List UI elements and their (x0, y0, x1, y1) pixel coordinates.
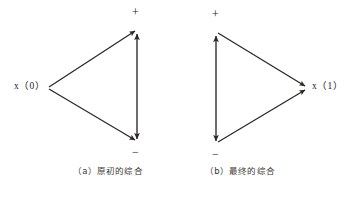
sign-label-minus-b: − (212, 148, 219, 160)
edge-source-to-minus-a (49, 89, 135, 140)
diagram-canvas (0, 0, 353, 199)
sign-label-plus-a: + (132, 6, 139, 18)
node-label-x1: x（1） (312, 82, 343, 92)
diagram-a-group (49, 31, 137, 140)
edge-plus-to-target-b (218, 33, 305, 86)
edge-minus-to-target-b (218, 90, 305, 142)
diagram-b-group (216, 33, 305, 142)
figure-container: x（0） + − + − x（1） （a）原初的综合 （b）最终的综合 (0, 0, 353, 199)
edge-source-to-plus-a (49, 31, 135, 87)
node-label-x0: x（0） (14, 82, 45, 92)
sign-label-minus-a: − (132, 146, 139, 158)
caption-diagram-a: （a）原初的综合 (73, 167, 143, 176)
caption-diagram-b: （b）最终的综合 (205, 167, 275, 176)
sign-label-plus-b: + (212, 8, 219, 20)
